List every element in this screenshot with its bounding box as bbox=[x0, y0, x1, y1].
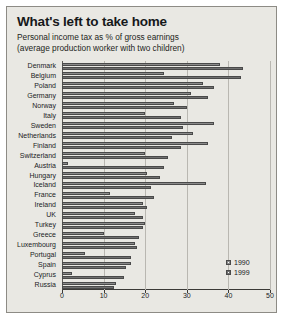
chart-card: What's left to take home Personal income… bbox=[6, 6, 277, 313]
legend-label-1990: 1990 bbox=[234, 259, 250, 266]
bar-1999 bbox=[62, 126, 183, 129]
chart-subtitle-line-2: (average production worker with two chil… bbox=[17, 43, 267, 54]
bar-1990 bbox=[62, 212, 135, 215]
bar-row bbox=[62, 142, 270, 152]
x-axis-tick bbox=[62, 290, 63, 293]
bar-1990 bbox=[62, 282, 116, 285]
legend-item-1999: 1999 bbox=[226, 267, 250, 277]
y-axis-label: Denmark bbox=[28, 62, 56, 70]
bar-1999 bbox=[62, 86, 214, 89]
bar-row bbox=[62, 162, 270, 172]
bar-1990 bbox=[62, 242, 135, 245]
x-axis-label: 50 bbox=[266, 292, 274, 299]
bar-1990 bbox=[62, 152, 145, 155]
x-axis-label: 20 bbox=[141, 292, 149, 299]
bar-1999 bbox=[62, 76, 241, 79]
bar-1999 bbox=[62, 116, 181, 119]
bar-row bbox=[62, 212, 270, 222]
y-axis-label: Ireland bbox=[35, 201, 56, 209]
y-axis-label: Russia bbox=[35, 281, 56, 289]
gridline bbox=[270, 61, 271, 290]
bar-1999 bbox=[62, 136, 172, 139]
bar-1999 bbox=[62, 196, 154, 199]
y-axis-label: Sweden bbox=[31, 122, 56, 130]
bar-row bbox=[62, 242, 270, 252]
y-axis-label: Belgium bbox=[31, 72, 56, 80]
y-axis-label: Greece bbox=[33, 231, 56, 239]
x-axis-tick bbox=[104, 290, 105, 293]
x-axis-label: 0 bbox=[60, 292, 64, 299]
bar-1999 bbox=[62, 146, 181, 149]
y-axis-labels: DenmarkBelgiumPolandGermanyNorwayItalySw… bbox=[7, 61, 59, 290]
bar-row bbox=[62, 222, 270, 232]
legend-label-1999: 1999 bbox=[234, 269, 250, 276]
bar-1990 bbox=[62, 202, 143, 205]
y-axis-label: Italy bbox=[43, 112, 56, 120]
bar-1990 bbox=[62, 102, 174, 105]
x-axis-tick bbox=[228, 290, 229, 293]
x-axis-tick bbox=[187, 290, 188, 293]
bar-1999 bbox=[62, 176, 160, 179]
y-axis-label: Portugal bbox=[30, 251, 56, 259]
bar-row bbox=[62, 82, 270, 92]
y-axis-label: Switzerland bbox=[20, 152, 56, 160]
bar-row bbox=[62, 282, 270, 292]
y-axis-label: Netherlands bbox=[18, 132, 56, 140]
legend-swatch-1990-icon bbox=[226, 260, 231, 265]
bar-1999 bbox=[62, 216, 143, 219]
bar-1999 bbox=[62, 256, 131, 259]
bar-row bbox=[62, 232, 270, 242]
bar-1999 bbox=[62, 186, 151, 189]
y-axis-label: Luxembourg bbox=[17, 241, 56, 249]
bar-1999 bbox=[62, 276, 124, 279]
x-axis-labels: 01020304050 bbox=[62, 292, 277, 304]
plot-area bbox=[62, 61, 270, 290]
bar-row bbox=[62, 102, 270, 112]
bar-1990 bbox=[62, 172, 147, 175]
bar-row bbox=[62, 182, 270, 192]
y-axis-label: France bbox=[34, 191, 56, 199]
bar-1999 bbox=[62, 226, 143, 229]
chart-subtitle: Personal income tax as % of gross earnin… bbox=[17, 32, 267, 53]
bar-row bbox=[62, 112, 270, 122]
x-axis-label: 30 bbox=[183, 292, 191, 299]
y-axis-label: Norway bbox=[32, 102, 56, 110]
bar-1999 bbox=[62, 67, 243, 70]
x-axis-tick bbox=[145, 290, 146, 293]
chart-subtitle-line-1: Personal income tax as % of gross earnin… bbox=[17, 32, 267, 43]
y-axis-label: Germany bbox=[27, 92, 56, 100]
bar-1990 bbox=[62, 82, 203, 85]
y-axis-label: UK bbox=[46, 211, 56, 219]
bar-row bbox=[62, 192, 270, 202]
y-axis-label: Iceland bbox=[33, 181, 56, 189]
bar-1990 bbox=[62, 142, 208, 145]
bar-1990 bbox=[62, 222, 145, 225]
bar-1990 bbox=[62, 112, 145, 115]
legend: 1990 1999 bbox=[226, 257, 250, 277]
x-axis-tick bbox=[270, 290, 271, 293]
bar-1999 bbox=[62, 166, 164, 169]
bar-1999 bbox=[62, 236, 139, 239]
y-axis-label: Finland bbox=[33, 142, 56, 150]
bar-row bbox=[62, 172, 270, 182]
legend-swatch-1999-icon bbox=[226, 270, 231, 275]
bar-1990 bbox=[62, 72, 164, 75]
bar-1999 bbox=[62, 246, 137, 249]
y-axis-label: Poland bbox=[34, 82, 56, 90]
bar-1990 bbox=[62, 232, 104, 235]
bar-row bbox=[62, 122, 270, 132]
bar-1990 bbox=[62, 182, 206, 185]
bar-1990 bbox=[62, 162, 68, 165]
bar-1990 bbox=[62, 122, 214, 125]
bar-1999 bbox=[62, 156, 168, 159]
bar-1990 bbox=[62, 272, 72, 275]
bar-1990 bbox=[62, 63, 220, 66]
y-axis-label: Hungary bbox=[30, 172, 56, 180]
x-axis-label: 10 bbox=[100, 292, 108, 299]
bar-1990 bbox=[62, 252, 85, 255]
bar-1999 bbox=[62, 106, 187, 109]
y-axis-label: Cyprus bbox=[34, 271, 56, 279]
legend-item-1990: 1990 bbox=[226, 257, 250, 267]
y-axis-label: Turkey bbox=[35, 221, 56, 229]
bar-1999 bbox=[62, 286, 114, 289]
